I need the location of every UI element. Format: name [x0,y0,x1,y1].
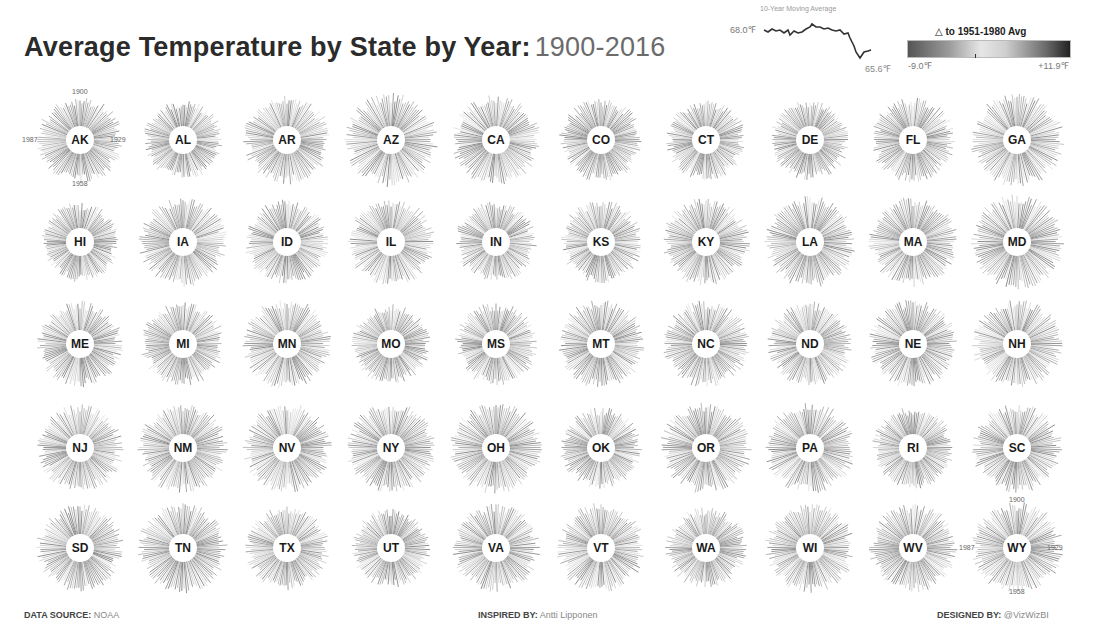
state-chart-va[interactable]: VA [446,498,546,598]
state-chart-az[interactable]: AZ [341,90,441,190]
inspired-by-label: INSPIRED BY: [478,610,538,620]
state-chart-ny[interactable]: NY [341,398,441,498]
state-label: OK [587,434,615,462]
state-label: CA [482,126,510,154]
state-chart-wv[interactable]: WV [863,498,963,598]
state-label: TN [169,534,197,562]
state-chart-mo[interactable]: MO [341,294,441,394]
year-marker-bottom: 1958 [1009,588,1025,595]
state-chart-tx[interactable]: TX [237,498,337,598]
state-chart-ga[interactable]: GA [967,90,1067,190]
state-label: WV [899,534,927,562]
state-label: ME [66,330,94,358]
state-label: IA [169,228,197,256]
state-label: WY [1003,534,1031,562]
state-label: OR [692,434,720,462]
state-label: WI [796,534,824,562]
year-marker-bottom: 1958 [72,180,88,187]
state-chart-ks[interactable]: KS [551,192,651,292]
state-label: HI [66,228,94,256]
state-label: TX [273,534,301,562]
state-chart-nm[interactable]: NM [133,398,233,498]
state-chart-ok[interactable]: OK [551,398,651,498]
state-chart-ar[interactable]: AR [237,90,337,190]
state-chart-me[interactable]: ME [30,294,130,394]
state-chart-hi[interactable]: HI [30,192,130,292]
state-label: NC [692,330,720,358]
state-label: CO [587,126,615,154]
state-chart-pa[interactable]: PA [760,398,860,498]
state-chart-mi[interactable]: MI [133,294,233,394]
state-label: PA [796,434,824,462]
state-chart-sd[interactable]: SD [30,498,130,598]
state-label: AK [66,126,94,154]
state-chart-or[interactable]: OR [656,398,756,498]
year-marker-top: 1900 [72,88,88,95]
state-label: VT [587,534,615,562]
state-chart-wi[interactable]: WI [760,498,860,598]
state-label: ND [796,330,824,358]
data-source-value: NOAA [91,610,119,620]
state-label: IN [482,228,510,256]
state-label: KS [587,228,615,256]
year-marker-left: 1987 [959,544,975,551]
state-chart-al[interactable]: AL [133,90,233,190]
state-label: MN [273,330,301,358]
state-label: CT [692,126,720,154]
state-chart-ri[interactable]: RI [863,398,963,498]
state-chart-in[interactable]: IN [446,192,546,292]
state-label: IL [377,228,405,256]
state-chart-nv[interactable]: NV [237,398,337,498]
state-chart-wa[interactable]: WA [656,498,756,598]
designed-by-value: @VizWizBI [1001,610,1048,620]
state-chart-de[interactable]: DE [760,90,860,190]
state-chart-nh[interactable]: NH [967,294,1067,394]
state-label: RI [899,434,927,462]
state-label: DE [796,126,824,154]
state-chart-vt[interactable]: VT [551,498,651,598]
state-chart-ia[interactable]: IA [133,192,233,292]
state-chart-ut[interactable]: UT [341,498,441,598]
state-label: MS [482,330,510,358]
state-chart-mt[interactable]: MT [551,294,651,394]
state-label: WA [692,534,720,562]
state-label: MT [587,330,615,358]
state-label: NH [1003,330,1031,358]
state-chart-la[interactable]: LA [760,192,860,292]
state-chart-mn[interactable]: MN [237,294,337,394]
state-chart-ky[interactable]: KY [656,192,756,292]
state-chart-tn[interactable]: TN [133,498,233,598]
state-label: NY [377,434,405,462]
state-chart-nd[interactable]: ND [760,294,860,394]
state-label: SC [1003,434,1031,462]
year-marker-right: 1929 [1047,544,1063,551]
designed-by: DESIGNED BY: @VizWizBI [937,610,1049,620]
state-label: LA [796,228,824,256]
state-chart-ne[interactable]: NE [863,294,963,394]
state-label: OH [482,434,510,462]
data-source: DATA SOURCE: NOAA [24,610,119,620]
state-chart-oh[interactable]: OH [446,398,546,498]
state-chart-md[interactable]: MD [967,192,1067,292]
state-chart-nj[interactable]: NJ [30,398,130,498]
state-chart-ma[interactable]: MA [863,192,963,292]
state-label: AL [169,126,197,154]
year-marker-top: 1900 [1009,496,1025,503]
state-chart-ct[interactable]: CT [656,90,756,190]
state-label: SD [66,534,94,562]
inspired-by: INSPIRED BY: Antti Lipponen [478,610,597,620]
state-label: AR [273,126,301,154]
state-label: MI [169,330,197,358]
year-marker-right: 1929 [110,136,126,143]
state-label: NM [169,434,197,462]
year-marker-left: 1987 [22,136,38,143]
state-chart-co[interactable]: CO [551,90,651,190]
state-chart-id[interactable]: ID [237,192,337,292]
designed-by-label: DESIGNED BY: [937,610,1001,620]
state-chart-ms[interactable]: MS [446,294,546,394]
state-chart-ca[interactable]: CA [446,90,546,190]
state-chart-nc[interactable]: NC [656,294,756,394]
state-chart-fl[interactable]: FL [863,90,963,190]
state-chart-sc[interactable]: SC [967,398,1067,498]
state-chart-il[interactable]: IL [341,192,441,292]
